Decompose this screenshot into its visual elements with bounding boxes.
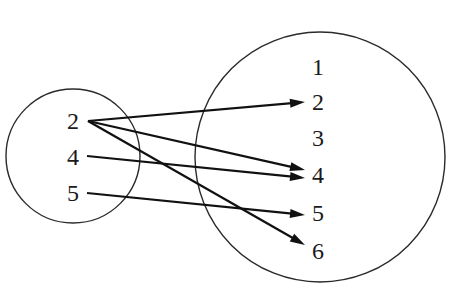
codomain-element-2: 2 xyxy=(312,89,324,115)
domain-element-2: 2 xyxy=(67,108,79,134)
domain-element-4: 4 xyxy=(67,144,79,170)
domain-element-5: 5 xyxy=(67,180,79,206)
codomain-element-6: 6 xyxy=(312,238,324,264)
codomain-element-1: 1 xyxy=(312,54,324,80)
codomain-element-3: 3 xyxy=(312,125,324,151)
codomain-element-5: 5 xyxy=(312,200,324,226)
codomain-element-4: 4 xyxy=(312,162,324,188)
mapping-diagram: 245 123456 xyxy=(0,0,457,303)
domain-elements: 245 xyxy=(67,108,79,206)
